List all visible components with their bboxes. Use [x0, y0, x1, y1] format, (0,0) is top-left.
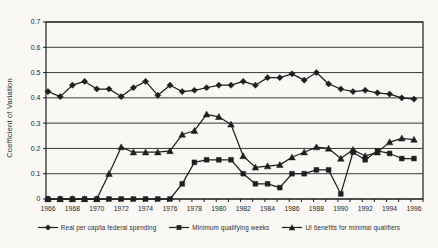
- square-marker-icon: [204, 157, 209, 162]
- square-marker-icon: [168, 197, 173, 202]
- triangle-marker-icon: [203, 111, 210, 117]
- diamond-marker-icon: [216, 82, 222, 88]
- x-tick-label: 1968: [65, 205, 80, 212]
- diamond-marker-icon: [204, 85, 210, 91]
- plot-border: [46, 22, 423, 199]
- square-marker-icon: [107, 197, 112, 202]
- square-marker-icon: [131, 197, 136, 202]
- x-tick-label: 1992: [358, 205, 373, 212]
- legend-label: UI benefits for minimal qualifiers: [305, 224, 400, 231]
- triangle-marker-icon: [240, 153, 247, 159]
- square-marker-icon: [338, 192, 343, 197]
- square-marker-icon: [119, 197, 124, 202]
- y-tick-label: 0: [37, 195, 41, 202]
- diamond-marker-icon: [362, 87, 368, 93]
- diamond-marker-icon: [399, 95, 405, 101]
- diamond-marker-icon: [338, 86, 344, 92]
- line-chart-canvas: 00.10.20.30.40.50.60.7196619681970197219…: [0, 0, 438, 222]
- y-tick-label: 0.2: [31, 145, 41, 152]
- x-tick-label: 1970: [89, 205, 104, 212]
- legend-label: Minimum qualifying weeks: [192, 224, 269, 231]
- square-marker-icon: [399, 156, 404, 161]
- diamond-marker-icon: [179, 88, 185, 94]
- x-tick-label: 1990: [333, 205, 348, 212]
- x-tick-label: 1986: [284, 205, 299, 212]
- x-tick-label: 1988: [309, 205, 324, 212]
- y-tick-label: 0.3: [31, 120, 41, 127]
- x-tick-label: 1996: [406, 205, 421, 212]
- series-square: [46, 149, 417, 202]
- diamond-marker-icon: [301, 77, 307, 83]
- diamond-marker-icon: [94, 86, 100, 92]
- legend-item: Minimum qualifying weeks: [169, 223, 269, 232]
- diamond-marker-icon: [411, 96, 417, 102]
- y-tick-label: 0.4: [31, 94, 41, 101]
- square-marker-icon: [253, 181, 258, 186]
- x-tick-label: 1976: [162, 205, 177, 212]
- square-marker-icon: [180, 181, 185, 186]
- square-marker-icon: [155, 197, 160, 202]
- square-marker-icon: [314, 168, 319, 173]
- y-tick-label: 0.1: [31, 170, 41, 177]
- diamond-marker-icon: [82, 78, 88, 84]
- square-marker-icon: [290, 171, 295, 176]
- y-tick-label: 0.6: [31, 44, 41, 51]
- legend-label: Real per capita federal spending: [61, 224, 156, 231]
- diamond-marker-icon: [106, 86, 112, 92]
- x-tick-label: 1972: [114, 205, 129, 212]
- legend-item: Real per capita federal spending: [38, 223, 156, 232]
- diamond-marker-icon: [265, 75, 271, 81]
- y-tick-label: 0.7: [31, 18, 41, 25]
- diamond-marker-icon: [289, 71, 295, 77]
- x-tick-label: 1982: [236, 205, 251, 212]
- triangle-marker-icon: [118, 144, 125, 150]
- square-marker-icon: [192, 160, 197, 165]
- series-triangle: [45, 111, 418, 202]
- diamond-marker-icon: [350, 88, 356, 94]
- y-tick-label: 0.5: [31, 69, 41, 76]
- diamond-marker-icon: [374, 90, 380, 96]
- square-marker-icon: [387, 151, 392, 156]
- square-marker-icon: [143, 197, 148, 202]
- diamond-marker-icon: [252, 82, 258, 88]
- diamond-marker-icon: [387, 91, 393, 97]
- square-marker-icon: [412, 156, 417, 161]
- x-tick-label: 1974: [138, 205, 153, 212]
- x-tick-label: 1980: [211, 205, 226, 212]
- square-marker-icon: [302, 171, 307, 176]
- x-tick-label: 1966: [40, 205, 55, 212]
- legend-diamond-icon: [38, 223, 58, 232]
- square-marker-icon: [265, 181, 270, 186]
- diamond-marker-icon: [228, 82, 234, 88]
- chart-figure: Coefficient of Variation 00.10.20.30.40.…: [0, 0, 438, 248]
- series-diamond: [45, 69, 417, 102]
- legend-square-icon: [169, 223, 189, 232]
- square-marker-icon: [277, 185, 282, 190]
- legend-item: UI benefits for minimal qualifiers: [282, 223, 400, 232]
- square-marker-icon: [216, 157, 221, 162]
- square-marker-icon: [241, 171, 246, 176]
- chart-legend: Real per capita federal spendingMinimum …: [0, 223, 438, 232]
- x-tick-label: 1978: [187, 205, 202, 212]
- diamond-marker-icon: [191, 87, 197, 93]
- triangle-marker-icon: [228, 121, 235, 127]
- x-tick-label: 1994: [382, 205, 397, 212]
- x-tick-label: 1984: [260, 205, 275, 212]
- diamond-marker-icon: [240, 78, 246, 84]
- legend-triangle-icon: [282, 223, 302, 232]
- diamond-marker-icon: [277, 75, 283, 81]
- triangle-marker-icon: [350, 146, 357, 152]
- square-marker-icon: [326, 168, 331, 173]
- square-marker-icon: [229, 157, 234, 162]
